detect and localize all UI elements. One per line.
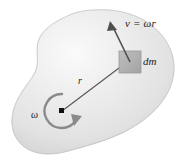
mass-element-label: dm	[143, 56, 156, 67]
velocity-label: v = ωr	[125, 18, 156, 29]
physics-figure: v = ωr dm r ω	[0, 0, 183, 165]
angular-velocity-label: ω	[31, 110, 38, 120]
rigid-body-blob	[12, 10, 174, 154]
rotation-axis-point	[59, 108, 64, 113]
radius-label: r	[78, 76, 82, 86]
